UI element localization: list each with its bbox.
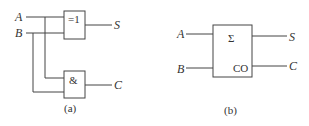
input-b-label: B bbox=[15, 26, 23, 40]
input-a-label: A bbox=[14, 10, 23, 24]
input-b-label-b: B bbox=[177, 62, 185, 76]
caption-b: (b) bbox=[224, 104, 237, 117]
output-s-label-b: S bbox=[289, 30, 295, 44]
caption-a: (a) bbox=[64, 102, 77, 115]
output-s-label: S bbox=[114, 18, 120, 32]
xor-symbol: =1 bbox=[68, 13, 80, 25]
half-adder-diagrams: A B =1 S & C (a) A B Σ CO S C (b) bbox=[0, 0, 309, 126]
diagram-b: A B Σ CO S C (b) bbox=[176, 25, 298, 117]
input-a-label-b: A bbox=[176, 27, 185, 41]
wire-a-branch bbox=[45, 17, 64, 78]
output-c-label-b: C bbox=[289, 59, 298, 73]
diagram-a: A B =1 S & C (a) bbox=[14, 10, 123, 115]
sum-symbol: Σ bbox=[228, 32, 234, 44]
carry-out-symbol: CO bbox=[233, 62, 248, 74]
output-c-label: C bbox=[114, 78, 123, 92]
wire-b-branch bbox=[33, 33, 64, 92]
and-symbol: & bbox=[69, 74, 78, 86]
